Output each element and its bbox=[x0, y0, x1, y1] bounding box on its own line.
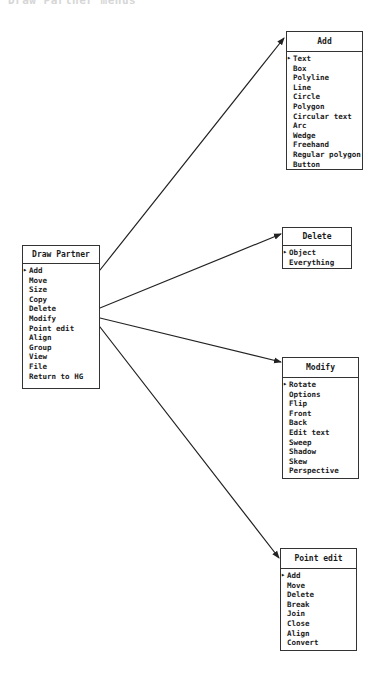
menu-item-delete[interactable]: Delete bbox=[281, 590, 356, 600]
menu-items: Add Move Delete Break Join Close Align C… bbox=[281, 569, 356, 651]
menu-modify: Modify Rotate Options Flip Front Back Ed… bbox=[282, 357, 359, 479]
menu-item-move[interactable]: Move bbox=[281, 581, 356, 591]
menu-items: Object Everything bbox=[283, 246, 351, 270]
menu-item-edit-text[interactable]: Edit text bbox=[283, 428, 358, 438]
menu-item-circular-text[interactable]: Circular text bbox=[287, 112, 362, 122]
menu-delete: Delete Object Everything bbox=[282, 227, 352, 269]
menu-item-sweep[interactable]: Sweep bbox=[283, 438, 358, 448]
menu-item-options[interactable]: Options bbox=[283, 390, 358, 400]
menu-item-back[interactable]: Back bbox=[283, 418, 358, 428]
menu-item-perspective[interactable]: Perspective bbox=[283, 466, 358, 476]
menu-item-add[interactable]: Add bbox=[23, 266, 99, 276]
menu-item-convert[interactable]: Convert bbox=[281, 638, 356, 648]
menu-item-delete[interactable]: Delete bbox=[23, 304, 99, 314]
menu-title: Point edit bbox=[281, 549, 356, 569]
menu-item-polyline[interactable]: Polyline bbox=[287, 73, 362, 83]
menu-item-copy[interactable]: Copy bbox=[23, 295, 99, 305]
menu-item-rotate[interactable]: Rotate bbox=[283, 380, 358, 390]
menu-title: Modify bbox=[283, 358, 358, 378]
menu-item-wedge[interactable]: Wedge bbox=[287, 131, 362, 141]
menu-item-line[interactable]: Line bbox=[287, 83, 362, 93]
menu-item-polygon[interactable]: Polygon bbox=[287, 102, 362, 112]
menu-title: Delete bbox=[283, 228, 351, 246]
menu-item-regular-polygon[interactable]: Regular polygon bbox=[287, 150, 362, 160]
menu-item-everything[interactable]: Everything bbox=[283, 258, 351, 268]
menu-item-arc[interactable]: Arc bbox=[287, 121, 362, 131]
menu-item-object[interactable]: Object bbox=[283, 248, 351, 258]
menu-point-edit: Point edit Add Move Delete Break Join Cl… bbox=[280, 548, 357, 651]
menu-item-skew[interactable]: Skew bbox=[283, 457, 358, 467]
menu-item-modify[interactable]: Modify bbox=[23, 314, 99, 324]
menu-item-flip[interactable]: Flip bbox=[283, 399, 358, 409]
menu-item-button[interactable]: Button bbox=[287, 160, 362, 170]
menu-item-box[interactable]: Box bbox=[287, 64, 362, 74]
connector-point-edit bbox=[70, 327, 279, 558]
menu-item-break[interactable]: Break bbox=[281, 600, 356, 610]
menu-add: Add Text Box Polyline Line Circle Polygo… bbox=[286, 31, 363, 170]
menu-item-size[interactable]: Size bbox=[23, 285, 99, 295]
menu-title: Add bbox=[287, 32, 362, 52]
menu-draw-partner: Draw Partner Add Move Size Copy Delete M… bbox=[22, 245, 100, 389]
menu-item-circle[interactable]: Circle bbox=[287, 92, 362, 102]
connector-add bbox=[46, 38, 284, 270]
menu-item-point-edit[interactable]: Point edit bbox=[23, 324, 99, 334]
menu-item-add[interactable]: Add bbox=[281, 571, 356, 581]
menu-items: Text Box Polyline Line Circle Polygon Ci… bbox=[287, 52, 362, 172]
menu-item-return-to-hg[interactable]: Return to HG bbox=[23, 372, 99, 382]
menu-item-view[interactable]: View bbox=[23, 352, 99, 362]
menu-item-align[interactable]: Align bbox=[281, 629, 356, 639]
menu-items: Add Move Size Copy Delete Modify Point e… bbox=[23, 264, 99, 384]
menu-items: Rotate Options Flip Front Back Edit text… bbox=[283, 378, 358, 479]
menu-title: Draw Partner bbox=[23, 246, 99, 264]
menu-item-text[interactable]: Text bbox=[287, 54, 362, 64]
menu-item-join[interactable]: Join bbox=[281, 609, 356, 619]
menu-item-front[interactable]: Front bbox=[283, 409, 358, 419]
menu-item-align[interactable]: Align bbox=[23, 333, 99, 343]
menu-item-shadow[interactable]: Shadow bbox=[283, 447, 358, 457]
menu-item-file[interactable]: File bbox=[23, 362, 99, 372]
menu-item-close[interactable]: Close bbox=[281, 619, 356, 629]
menu-item-move[interactable]: Move bbox=[23, 276, 99, 286]
menu-item-freehand[interactable]: Freehand bbox=[287, 140, 362, 150]
menu-item-group[interactable]: Group bbox=[23, 343, 99, 353]
